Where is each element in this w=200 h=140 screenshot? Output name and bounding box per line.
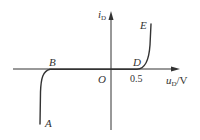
y-axis-arrow-icon: [109, 11, 114, 20]
x-axis-label: uD/V: [166, 75, 188, 88]
diode-iv-diagram: iD E D B O 0.5 uD/V A: [0, 0, 200, 140]
point-label-a: A: [45, 118, 52, 129]
y-axis-label-sub: D: [101, 14, 106, 22]
point-label-b: B: [49, 57, 56, 68]
x-axis-label-unit: /V: [177, 74, 188, 86]
point-label-e: E: [140, 20, 147, 31]
origin-label: O: [98, 74, 106, 85]
y-axis-label: iD: [98, 9, 106, 22]
x-axis-arrow-icon: [171, 67, 180, 72]
x-tick-label: 0.5: [130, 74, 143, 84]
point-label-d: D: [133, 57, 141, 68]
